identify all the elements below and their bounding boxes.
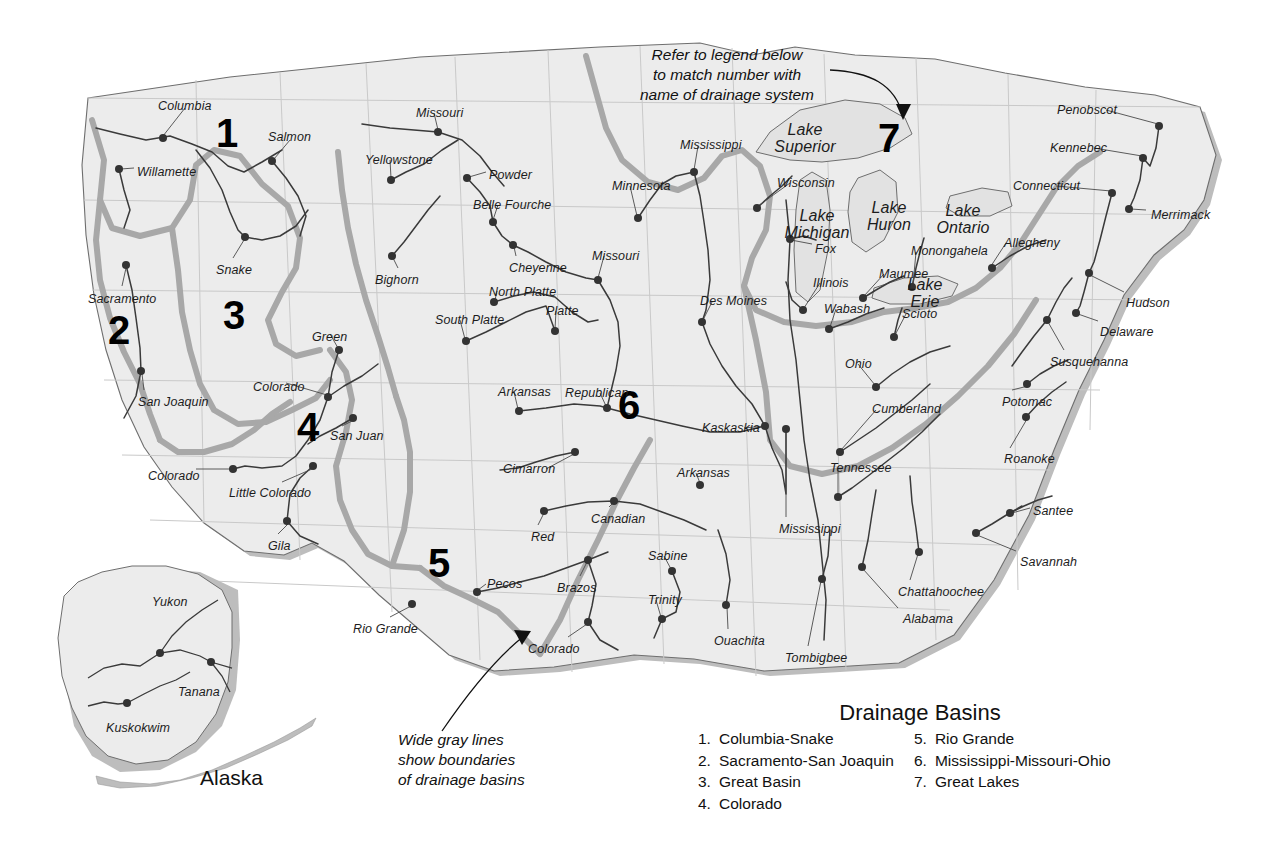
river-label-mississippi: Mississippi [779,523,841,536]
river-label-connecticut: Connecticut [1013,180,1080,193]
river-label-chattahoochee: Chattahoochee [898,586,984,599]
legend-reference-note-line-2: to match number with [612,65,842,85]
river-label-hudson: Hudson [1126,297,1170,310]
river-label-merrimack: Merrimack [1151,209,1210,222]
legend-item-number: 4. [698,794,714,815]
legend-item: 5.Rio Grande [914,729,1111,750]
river-label-cheyenne: Cheyenne [509,262,567,275]
legend-column-left: 1.Columbia-Snake2.Sacramento-San Joaquin… [698,729,894,814]
lake-label-line: Superior [760,139,850,156]
river-label-snake: Snake [216,264,252,277]
river-label-arkansas: Arkansas [677,467,730,480]
legend-item-label: Columbia-Snake [719,729,834,750]
legend-item: 1.Columbia-Snake [698,729,894,750]
river-label-san-joaquin: San Joaquin [138,396,209,409]
river-label-kuskokwim: Kuskokwim [106,722,170,735]
river-label-yukon: Yukon [152,596,187,609]
river-label-sabine: Sabine [648,550,688,563]
river-label-scioto: Scioto [902,308,937,321]
basin-number-2: 2 [108,310,130,350]
legend-item-label: Sacramento-San Joaquin [719,751,894,772]
river-label-wisconsin: Wisconsin [777,177,835,190]
legend-item-number: 2. [698,751,714,772]
river-label-bighorn: Bighorn [375,274,419,287]
drainage-basins-map: 1 2 3 4 5 6 7 LakeSuperiorLakeMichiganLa… [0,0,1279,845]
river-label-republican: Republican [565,387,629,400]
river-label-willamette: Willamette [137,166,196,179]
river-label-san-juan: San Juan [330,430,384,443]
legend-item: 2.Sacramento-San Joaquin [698,751,894,772]
river-label-alabama: Alabama [903,613,953,626]
lake-label-lake-superior: LakeSuperior [760,122,850,155]
river-label-tennessee: Tennessee [830,462,892,475]
legend-reference-note: Refer to legend below to match number wi… [612,45,842,104]
river-label-kaskaskia: Kaskaskia [702,422,760,435]
river-label-sacramento: Sacramento [88,293,156,306]
river-label-cumberland: Cumberland [872,403,941,416]
legend-title: Drainage Basins [660,700,1180,726]
river-label-gila: Gila [268,540,291,553]
gray-lines-note-line-3: of drainage basins [398,770,618,790]
lake-label-line: Lake [760,122,850,139]
river-label-tombigbee: Tombigbee [785,652,847,665]
river-label-powder: Powder [489,169,532,182]
river-label-ouachita: Ouachita [714,635,765,648]
gray-lines-note: Wide gray lines show boundaries of drain… [398,730,618,789]
legend-item-label: Rio Grande [935,729,1014,750]
basin-number-4: 4 [297,407,319,447]
river-label-belle-fourche: Belle Fourche [473,199,551,212]
legend-item: 4.Colorado [698,794,894,815]
river-label-allegheny: Allegheny [1004,237,1060,250]
river-label-missouri: Missouri [416,107,463,120]
river-label-colorado: Colorado [148,470,200,483]
river-label-yellowstone: Yellowstone [365,154,433,167]
legend-item-number: 5. [914,729,930,750]
legend-item-label: Colorado [719,794,782,815]
gray-lines-note-line-1: Wide gray lines [398,730,618,750]
river-label-south-platte: South Platte [435,314,504,327]
river-label-kennebec: Kennebec [1050,142,1107,155]
legend-item-label: Mississippi-Missouri-Ohio [935,751,1111,772]
river-label-savannah: Savannah [1020,556,1077,569]
river-label-delaware: Delaware [1100,326,1154,339]
river-label-monongahela: Monongahela [911,245,988,258]
river-label-roanoke: Roanoke [1004,453,1055,466]
river-label-tanana: Tanana [178,686,220,699]
river-label-wabash: Wabash [824,303,870,316]
river-label-pecos: Pecos [487,578,522,591]
legend-item-number: 6. [914,751,930,772]
river-label-ohio: Ohio [845,358,872,371]
river-label-maumee: Maumee [879,268,928,281]
basin-number-3: 3 [223,295,245,335]
river-label-susquehanna: Susquehanna [1050,356,1128,369]
river-label-minnesota: Minnesota [612,180,671,193]
basin-number-5: 5 [428,543,450,583]
gray-lines-note-line-2: show boundaries [398,750,618,770]
river-label-columbia: Columbia [158,100,212,113]
legend-item: 6.Mississippi-Missouri-Ohio [914,751,1111,772]
river-label-arkansas: Arkansas [498,386,551,399]
river-label-fox: Fox [815,243,836,256]
basin-number-7: 7 [878,118,900,158]
river-label-cimarron: Cimarron [503,463,555,476]
river-label-santee: Santee [1033,505,1073,518]
river-label-trinity: Trinity [648,594,682,607]
legend-column-right: 5.Rio Grande6.Mississippi-Missouri-Ohio7… [914,729,1111,814]
legend-item-label: Great Basin [719,772,801,793]
river-label-red: Red [531,531,554,544]
river-label-illinois: Illinois [813,277,849,290]
river-label-mississippi: Mississippi [680,139,742,152]
legend-item: 3.Great Basin [698,772,894,793]
river-label-colorado: Colorado [528,643,580,656]
lake-label-line: Lake [918,203,1008,220]
conus-landmass [82,43,1216,671]
legend-reference-note-line-3: name of drainage system [612,85,842,105]
legend-item-number: 1. [698,729,714,750]
river-label-little-colorado: Little Colorado [229,487,311,500]
river-label-penobscot: Penobscot [1057,104,1117,117]
river-label-brazos: Brazos [557,582,597,595]
river-label-rio-grande: Rio Grande [353,623,418,636]
legend-item-number: 3. [698,772,714,793]
legend-item-number: 7. [914,772,930,793]
legend: Drainage Basins 1.Columbia-Snake2.Sacram… [660,700,1180,814]
